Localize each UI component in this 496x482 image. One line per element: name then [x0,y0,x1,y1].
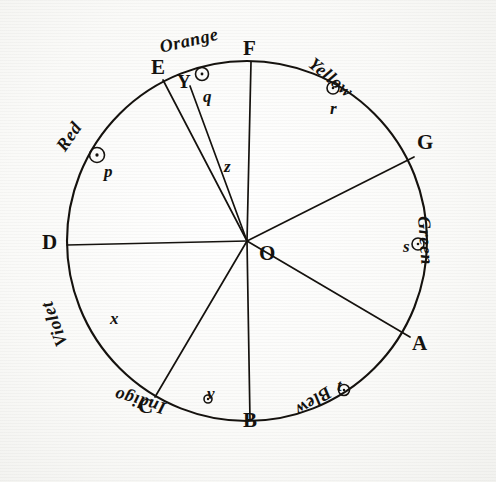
rim-letter-F: F [243,38,256,59]
point-letter-t: t [337,377,342,394]
rim-letter-A: A [412,333,428,354]
figure-canvas: ABCDEFGY O RedOrangeYellowGreenBlewIndig… [0,0,496,482]
point-dot-p [95,153,98,156]
point-letter-p: p [104,163,113,180]
radius-OD [67,241,247,245]
point-letter-r: r [330,100,337,117]
center-label-O: O [259,243,276,264]
rim-letter-B: B [243,410,258,431]
rim-letter-Y: Y [177,72,191,91]
radius-OB [247,241,250,420]
radius-OG [247,157,414,241]
point-letter-v: v [207,385,215,402]
point-letter-x: x [110,310,119,327]
point-letter-s: s [403,238,410,255]
colour-name-green: Green [415,215,436,265]
radius-OF [247,62,251,241]
radius-OC [155,241,247,397]
point-dot-q [201,73,204,76]
radius-OY [190,86,247,241]
point-letter-q: q [203,88,212,105]
rim-letter-E: E [151,57,166,78]
point-dot-t [343,389,345,391]
rim-letter-G: G [417,132,434,153]
rim-letter-D: D [42,232,58,253]
point-letter-z: z [224,158,231,175]
